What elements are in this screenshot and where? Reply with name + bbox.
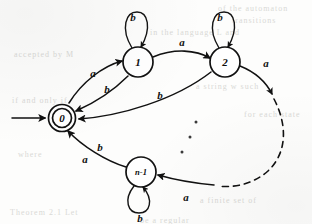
- diagram-canvas: 0 1 2 n-1 b b b a b a b a a b a: [0, 0, 312, 224]
- edge-1-to-2: [153, 51, 210, 58]
- edge-label-0-to-1: a: [90, 67, 96, 79]
- edge-label-self-loop-2: b: [217, 11, 223, 23]
- edge-label-1-to-2: a: [179, 36, 185, 48]
- edge-label-n-to-0-b: b: [97, 141, 103, 153]
- ellipsis-dot: [189, 136, 192, 139]
- edge-label-2-out: a: [263, 57, 269, 69]
- ellipsis-dot: [181, 151, 184, 154]
- self-loop-2: [212, 12, 234, 48]
- state-0-label: 0: [59, 112, 65, 124]
- edge-into-n-minus-1: [158, 175, 214, 185]
- state-node-n-minus-1[interactable]: n-1: [126, 157, 156, 187]
- ellipsis-dot: [195, 121, 198, 124]
- edge-2-out-solid: [240, 66, 272, 94]
- edge-dashed-continuation: [218, 99, 283, 187]
- self-loop-n-minus-1: [128, 186, 150, 213]
- edge-label-1-to-0: b: [104, 83, 110, 95]
- state-1-label: 1: [135, 56, 141, 68]
- self-loop-1: [125, 12, 147, 48]
- edge-label-2-to-0: b: [157, 89, 163, 101]
- edge-label-n-to-0-a: a: [82, 153, 88, 165]
- automaton-figure: of the automaton transitions in the lang…: [0, 0, 312, 224]
- state-node-2[interactable]: 2: [210, 47, 240, 77]
- state-node-0[interactable]: 0: [49, 105, 76, 132]
- edge-2-to-0: [79, 72, 211, 119]
- edge-label-into-n: a: [183, 191, 189, 203]
- state-node-1[interactable]: 1: [123, 47, 153, 77]
- edge-label-self-loop-1: b: [130, 11, 136, 23]
- edge-label-self-loop-n: b: [137, 212, 143, 224]
- state-n-minus-1-label: n-1: [135, 167, 147, 177]
- state-2-label: 2: [221, 56, 228, 68]
- edge-1-to-0: [76, 76, 128, 111]
